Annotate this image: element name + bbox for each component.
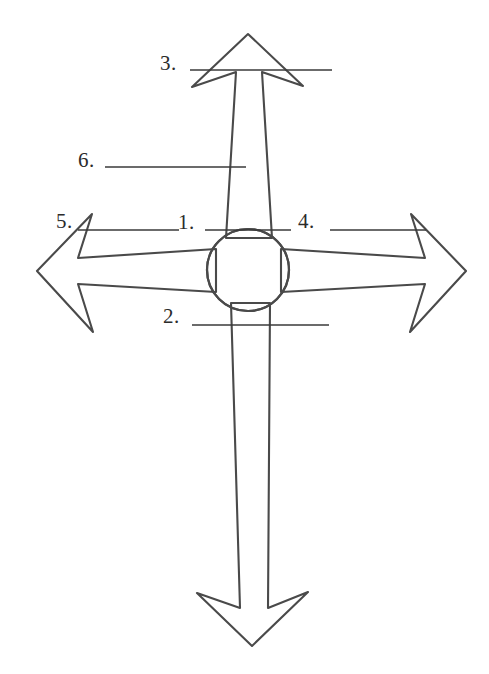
diagram-page: 3. 6. 5. 1. 4. 2. — [0, 0, 489, 674]
label-number-4: 4. — [298, 211, 315, 232]
four-way-arrow-figure — [0, 0, 489, 674]
label-number-6: 6. — [78, 150, 95, 171]
label-number-1: 1. — [178, 212, 195, 233]
down-arrow-shape — [197, 303, 308, 646]
label-number-5: 5. — [56, 211, 73, 232]
label-number-2: 2. — [163, 306, 180, 327]
label-number-3: 3. — [160, 53, 177, 74]
up-arrow-shape — [192, 34, 303, 238]
